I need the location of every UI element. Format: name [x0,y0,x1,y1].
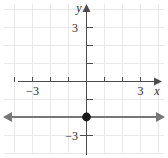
y-tick-label-negative-three: −3 [65,129,78,143]
y-axis-arrow-up [83,4,91,12]
line-arrow-right [156,112,165,122]
x-axis-label: x [153,84,160,98]
line-arrow-left [3,112,12,122]
coordinate-graph: −3 3 3 −3 x y [0,0,168,158]
coordinate-plane-figure: −3 3 3 −3 x y [0,0,168,158]
y-axis [83,4,91,155]
y-tick-label-positive-three: 3 [72,21,78,35]
x-tick-label-positive-three: 3 [138,84,144,98]
plot-point-y-intercept [82,113,91,122]
y-axis-label: y [75,1,82,15]
x-tick-label-negative-three: −3 [26,84,39,98]
